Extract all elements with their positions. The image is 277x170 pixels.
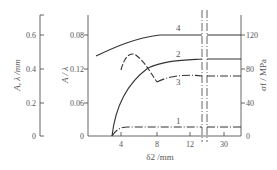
curve-label-3: 3 <box>176 77 181 87</box>
curve-3-dashed <box>121 54 157 82</box>
left-outer-axis-title: A, λ /mm <box>12 59 22 92</box>
right-tick: 120 <box>246 31 258 40</box>
x-axis-title: δ2 /mm <box>146 152 174 162</box>
curve-label-1: 1 <box>176 116 181 126</box>
left-inner-tick: 0.08 <box>70 31 84 40</box>
curve-1 <box>112 127 241 136</box>
curve-label-4: 4 <box>176 23 181 33</box>
left-outer-tick: 0.4 <box>26 65 36 74</box>
left-inner-axis-title: A / λ <box>60 67 70 84</box>
right-tick: 40 <box>246 99 254 108</box>
left-outer-tick: 0.2 <box>26 99 36 108</box>
axis-break <box>202 10 207 142</box>
left-inner-tick: 0 <box>80 132 84 141</box>
left-inner-tick: 0.12 <box>70 65 84 74</box>
curve-label-2: 2 <box>176 49 181 59</box>
right-axis-title: σf / MPa <box>258 59 268 91</box>
x-tick: 30 <box>220 140 228 149</box>
left-outer-tick: 0.6 <box>26 31 36 40</box>
chart: 0.6 0.4 0.2 0 0.08 0.12 0.06 0 120 80 40… <box>0 0 277 170</box>
right-tick: 0 <box>246 132 250 141</box>
x-tick: 4 <box>119 140 123 149</box>
left-inner-tick: 0.06 <box>70 99 84 108</box>
curve-4 <box>96 35 241 56</box>
x-tick: 12 <box>186 140 194 149</box>
x-tick: 8 <box>155 140 159 149</box>
curve-3-dashdot <box>157 75 241 82</box>
right-tick: 80 <box>246 65 254 74</box>
left-outer-tick: 0 <box>32 132 36 141</box>
